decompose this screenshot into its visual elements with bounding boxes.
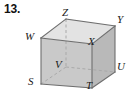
vertex-label-W: W [25, 31, 34, 42]
vertex-label-X: X [88, 36, 95, 47]
vertex-label-Y: Y [117, 14, 123, 25]
vertex-label-Z: Z [62, 7, 68, 18]
vertex-label-S: S [28, 76, 34, 87]
geometry-figure-container: 13. Z Y W X V U S T [0, 0, 131, 99]
vertex-label-T: T [86, 80, 92, 91]
vertex-label-U: U [117, 61, 125, 72]
vertex-label-V: V [55, 59, 62, 70]
